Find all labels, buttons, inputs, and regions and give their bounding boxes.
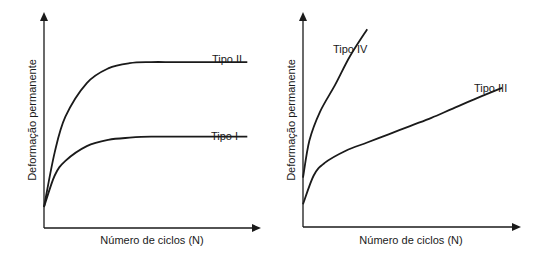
y-axis-label: Deformação permanente [26,59,38,181]
curve-label-tipo-iii: Tipo III [474,82,507,94]
curve-label-tipo-iv: Tipo IV [333,43,368,55]
curve-label-tipo-ii: Tipo II [212,53,242,65]
chart-right: Número de ciclos (N) Deformação permanen… [285,12,521,246]
x-axis-arrow-icon [252,224,261,232]
chart-left: Número de ciclos (N) Deformação permanen… [26,12,261,246]
x-axis-label: Número de ciclos (N) [359,234,462,246]
series-line-tipo-iii [303,88,502,204]
curve-label-tipo-i: Tipo I [211,130,238,142]
series-group [303,29,502,204]
x-axis-arrow-icon [512,223,521,231]
chart-figure: Número de ciclos (N) Deformação permanen… [0,0,541,262]
y-axis-label: Deformação permanente [285,59,297,181]
series-line-tipo-i [44,137,247,207]
y-axis-arrow-icon [40,12,48,21]
y-axis-arrow-icon [299,12,307,21]
x-axis-label: Número de ciclos (N) [100,234,203,246]
